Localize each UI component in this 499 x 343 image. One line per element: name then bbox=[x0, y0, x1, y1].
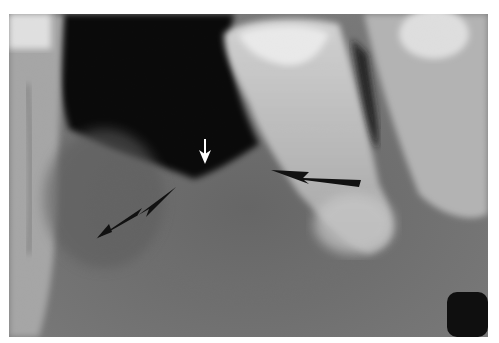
radiograph-film bbox=[9, 14, 488, 337]
radiograph-image bbox=[9, 14, 488, 337]
